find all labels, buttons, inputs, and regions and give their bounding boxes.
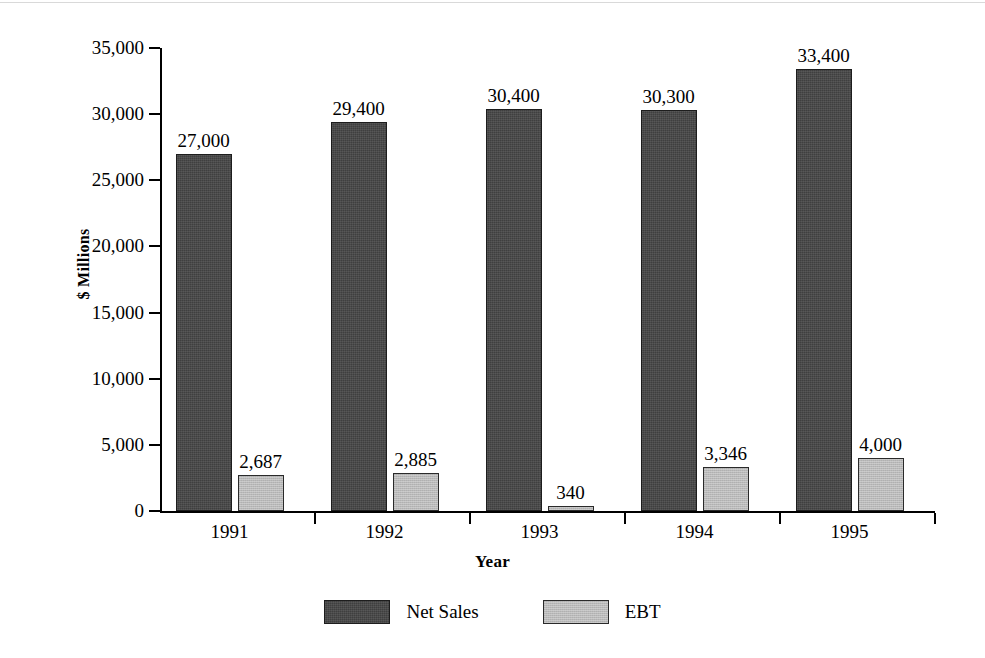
bar-value-label: 29,400 <box>332 99 384 118</box>
chart-legend: Net SalesEBT <box>0 600 985 624</box>
legend-swatch-ebt <box>543 600 609 624</box>
y-axis-tick-label: 10,000 <box>92 368 144 390</box>
y-axis-tick <box>149 47 160 49</box>
bar-ebt-1994: 3,346 <box>703 467 749 511</box>
bar-ebt-1993: 340 <box>548 506 594 511</box>
bar-value-label: 33,400 <box>797 46 849 65</box>
bar-value-label: 340 <box>556 483 585 502</box>
y-axis-tick-label: 30,000 <box>92 103 144 125</box>
bar-value-label: 27,000 <box>177 131 229 150</box>
y-axis-title: $ Millions <box>75 194 93 334</box>
bar-value-label: 2,885 <box>394 450 437 469</box>
y-axis-tick <box>149 245 160 247</box>
y-axis-tick-label: 0 <box>135 500 145 522</box>
y-axis-tick <box>149 510 160 512</box>
legend-item-ebt: EBT <box>543 600 661 624</box>
x-axis-tick <box>934 513 936 524</box>
x-axis-tick <box>314 513 316 524</box>
y-axis-tick <box>149 312 160 314</box>
bar-value-label: 30,400 <box>487 86 539 105</box>
x-axis-line <box>160 511 935 513</box>
y-axis-tick-label: 5,000 <box>101 434 144 456</box>
bar-ebt-1992: 2,885 <box>393 473 439 511</box>
y-axis-tick <box>149 444 160 446</box>
y-axis-tick-label: 20,000 <box>92 235 144 257</box>
bar-value-label: 2,687 <box>239 452 282 471</box>
legend-item-net-sales: Net Sales <box>324 600 478 624</box>
bar-value-label: 4,000 <box>859 435 902 454</box>
x-axis-tick <box>779 513 781 524</box>
y-axis-tick-label: 35,000 <box>92 37 144 59</box>
legend-swatch-net-sales <box>324 600 390 624</box>
x-axis-category-label: 1994 <box>676 521 714 543</box>
bar-chart: $ Millions 05,00010,00015,00020,00025,00… <box>0 0 985 658</box>
y-axis-tick <box>149 113 160 115</box>
x-axis-category-label: 1991 <box>211 521 249 543</box>
x-axis-category-label: 1993 <box>521 521 559 543</box>
y-axis-tick <box>149 378 160 380</box>
x-axis-tick <box>624 513 626 524</box>
x-axis-title: Year <box>0 552 985 572</box>
legend-label: EBT <box>625 601 661 623</box>
bar-net-sales-1992: 29,400 <box>331 122 387 511</box>
scan-artifact-line <box>0 2 985 3</box>
bar-net-sales-1995: 33,400 <box>796 69 852 511</box>
bar-net-sales-1993: 30,400 <box>486 109 542 511</box>
bar-value-label: 3,346 <box>704 444 747 463</box>
y-axis-tick-label: 15,000 <box>92 302 144 324</box>
y-axis-line <box>160 48 162 513</box>
bar-ebt-1995: 4,000 <box>858 458 904 511</box>
y-axis-tick-label: 25,000 <box>92 169 144 191</box>
y-axis-tick <box>149 179 160 181</box>
plot-area: 05,00010,00015,00020,00025,00030,00035,0… <box>160 48 935 513</box>
x-axis-category-label: 1995 <box>831 521 869 543</box>
bar-value-label: 30,300 <box>642 87 694 106</box>
bar-net-sales-1991: 27,000 <box>176 154 232 511</box>
legend-label: Net Sales <box>406 601 478 623</box>
x-axis-category-label: 1992 <box>366 521 404 543</box>
x-axis-tick <box>469 513 471 524</box>
bar-net-sales-1994: 30,300 <box>641 110 697 511</box>
bar-ebt-1991: 2,687 <box>238 475 284 511</box>
